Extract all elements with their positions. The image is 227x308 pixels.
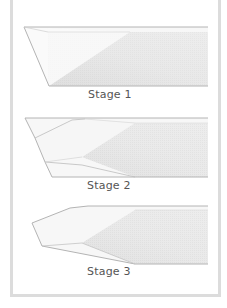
blade-stages-diagram xyxy=(0,0,227,308)
stage-1-blade xyxy=(24,27,208,86)
stage-2-label: Stage 2 xyxy=(87,179,131,192)
stage-3-blade xyxy=(32,206,208,264)
stage-3-label: Stage 3 xyxy=(87,265,131,278)
stage-1-label: Stage 1 xyxy=(88,88,132,101)
stage-2-blade xyxy=(25,118,208,177)
